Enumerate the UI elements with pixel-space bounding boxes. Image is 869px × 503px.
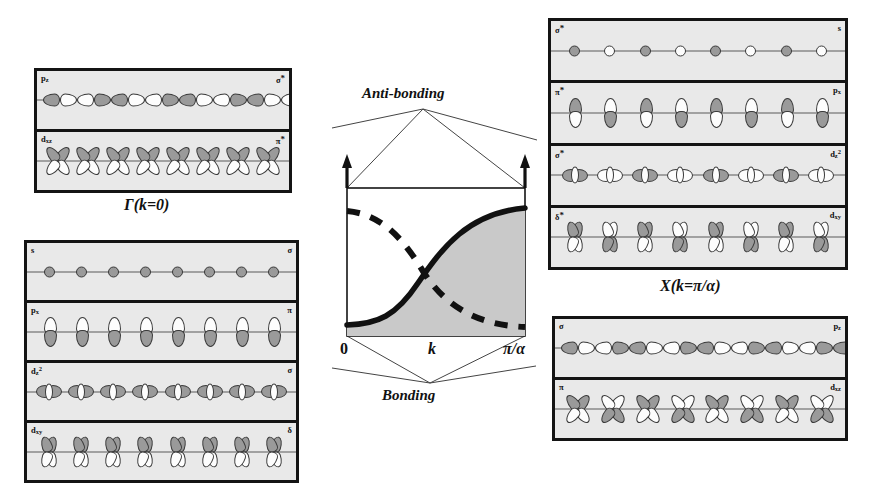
dxz-orbital-icon [105, 148, 131, 174]
orbital-clover [45, 148, 71, 174]
dxz-orbital-icon [565, 396, 591, 422]
orbital-clover [135, 148, 161, 174]
orbital-px [172, 317, 183, 347]
orbital-dz2 [562, 167, 588, 183]
panel-x-antibonding: σ* s π* px σ* dz2 δ* dxy [548, 18, 848, 270]
s-orbital-icon [108, 266, 119, 277]
orbital-pz [247, 94, 281, 107]
panel-x-bonding: σ pz π dxz [552, 316, 848, 441]
dxy-orbital-icon [170, 437, 185, 467]
orbital-row-dz2-sigma-star: σ* dz2 [551, 146, 845, 208]
pz-orbital-icon [833, 342, 845, 355]
px-orbital-icon [108, 317, 119, 347]
s-orbital-icon [76, 266, 87, 277]
dxz-orbital-icon [255, 148, 281, 174]
axis-tick-pi-over-a: π/α [503, 340, 525, 358]
orbital-row-px-pi: px π [27, 303, 296, 363]
orbital-s [569, 45, 580, 56]
px-orbital-icon [710, 98, 721, 128]
orbital-px [781, 98, 792, 128]
s-orbital-icon [204, 266, 215, 277]
dz2-orbital-icon [197, 384, 223, 400]
pz-lobe-right [748, 342, 765, 355]
px-lobe-down [236, 330, 249, 347]
orbital-row-dxz-pi-star: dxz π* [37, 132, 289, 190]
symmetry-label-delta-star: δ* [555, 211, 564, 222]
px-lobe-down [44, 330, 57, 347]
px-orbital-icon [781, 98, 792, 128]
s-orbital-icon [710, 45, 721, 56]
orbital-s [108, 266, 119, 277]
orbital-label-px: px [31, 306, 39, 316]
orbital-dz2 [229, 384, 255, 400]
pz-orbital-icon [281, 94, 289, 107]
px-orbital-icon [675, 98, 686, 128]
orbital-dz2 [632, 167, 658, 183]
s-orbital-icon [781, 45, 792, 56]
orbital-pz [77, 94, 111, 107]
dz2-torus-ring [641, 167, 649, 184]
guide-lines-top [332, 109, 537, 188]
orbital-bow [602, 222, 617, 252]
orbital-pz [111, 94, 145, 107]
px-lobe-down [604, 111, 617, 128]
orbital-pz [765, 342, 799, 355]
axis-label-k: k [428, 340, 436, 358]
orbital-s [640, 45, 651, 56]
dz2-torus-ring [45, 383, 53, 400]
orbital-px [76, 317, 87, 347]
orbital-s [140, 266, 151, 277]
orbital-px [640, 98, 651, 128]
dz2-orbital-icon [229, 384, 255, 400]
orbital-chain [551, 167, 845, 183]
orbital-px [236, 317, 247, 347]
pz-orbital-icon [663, 342, 697, 355]
orbital-dz2 [597, 167, 623, 183]
orbital-pz [731, 342, 765, 355]
orbital-pz [833, 342, 845, 355]
pz-orbital-icon [595, 342, 629, 355]
dxz-orbital-icon [75, 148, 101, 174]
pz-orbital-icon [213, 94, 247, 107]
orbital-bow [106, 437, 121, 467]
caption-gamma: Γ(k=0) [124, 196, 169, 214]
pz-orbital-icon [765, 342, 799, 355]
dz2-orbital-icon [703, 167, 729, 183]
dz2-torus-ring [238, 383, 246, 400]
dz2-orbital-icon [132, 384, 158, 400]
px-orbital-icon [640, 98, 651, 128]
orbital-s [44, 266, 55, 277]
pz-lobe-right [162, 94, 179, 107]
orbital-dz2 [261, 384, 287, 400]
px-orbital-icon [204, 317, 215, 347]
pz-orbital-icon [697, 342, 731, 355]
pz-lobe-left [765, 342, 782, 355]
dz2-torus-ring [782, 167, 790, 184]
px-lobe-down [76, 330, 89, 347]
pz-lobe-right [646, 342, 663, 355]
orbital-px [268, 317, 279, 347]
orbital-dz2 [68, 384, 94, 400]
orbital-px [108, 317, 119, 347]
orbital-label-s: s [838, 24, 841, 33]
dz2-orbital-icon [68, 384, 94, 400]
pz-lobe-left [43, 94, 60, 107]
orbital-clover [255, 148, 281, 174]
px-orbital-icon [268, 317, 279, 347]
dz2-orbital-icon [597, 167, 623, 183]
dz2-orbital-icon [667, 167, 693, 183]
dxz-orbital-icon [670, 396, 696, 422]
orbital-bow [638, 222, 653, 252]
pz-orbital-icon [799, 342, 833, 355]
orbital-bow [779, 222, 794, 252]
orbital-chain [37, 94, 289, 107]
orbital-dz2 [808, 167, 834, 183]
orbital-row-s-sigma: s σ [27, 243, 296, 303]
orbital-label-dxz: dxz [830, 383, 841, 393]
orbital-bow [708, 222, 723, 252]
orbital-chain [551, 98, 845, 128]
dxy-orbital-icon [234, 437, 249, 467]
px-orbital-icon [76, 317, 87, 347]
dz2-torus-ring [747, 167, 755, 184]
orbital-s [204, 266, 215, 277]
